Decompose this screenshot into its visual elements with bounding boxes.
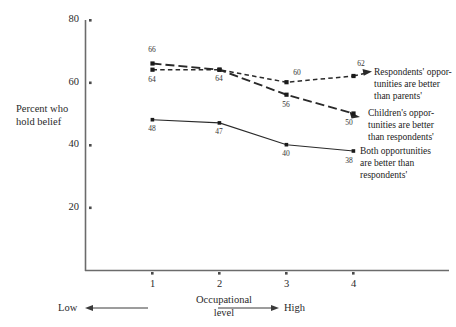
x-tick-label-4: 4 [346,278,362,289]
legend-item-children: Children's oppor- tunities are better th… [368,107,456,144]
data-label-both-2: 47 [210,127,228,136]
y-tick-label-40: 40 [55,138,79,149]
data-label-both-3: 40 [277,149,295,158]
data-label-respondents-3: 60 [288,68,306,77]
legend-respondents-line2: tunities are better [374,78,456,90]
x-axis-title-line1: Occupational [178,294,270,307]
data-label-children-1: 66 [143,45,161,54]
legend-item-both: Both opportunities are better than respo… [360,145,456,182]
data-label-children-4: 50 [340,118,358,127]
y-tick-label-60: 60 [55,76,79,87]
data-label-both-4: 38 [340,156,358,165]
legend-both-line3: respondents' [360,169,456,181]
low-label: Low [58,302,77,313]
x-tick-label-2: 2 [212,278,228,289]
series-children [150,61,360,118]
data-label-children-3: 56 [277,100,295,109]
legend-both-line2: are better than [360,157,456,169]
y-tick-marks [89,19,92,209]
high-arrowhead [271,305,279,311]
legend-respondents-line3: than parents' [374,90,456,102]
y-axis-title-line2: hold belief [16,116,61,129]
x-axis-title-line2: level [178,307,270,320]
data-label-both-1: 48 [143,124,161,133]
series-both [151,118,356,153]
data-label-respondents-1: 64 [143,75,161,84]
legend-respondents-line1: Respondents' oppor- [374,66,456,78]
x-tick-label-3: 3 [279,278,295,289]
y-tick-label-80: 80 [55,13,79,24]
data-label-respondents-4: 62 [352,59,370,68]
data-label-children-2: 64 [210,74,228,83]
x-tick-label-1: 1 [145,278,161,289]
legend-item-respondents: Respondents' oppor- tunities are better … [374,66,456,103]
legend-children-line1: Children's oppor- [368,107,456,119]
high-label: High [284,302,305,313]
low-arrowhead [85,305,93,311]
series-respondents [150,68,372,85]
y-tick-label-20: 20 [55,201,79,212]
legend-children-line2: tunities are better [368,119,456,131]
legend-children-line3: than respondents' [368,131,456,143]
x-tick-marks [151,272,355,275]
y-axis-title-line1: Percent who [16,103,68,116]
legend-both-line1: Both opportunities [360,145,456,157]
